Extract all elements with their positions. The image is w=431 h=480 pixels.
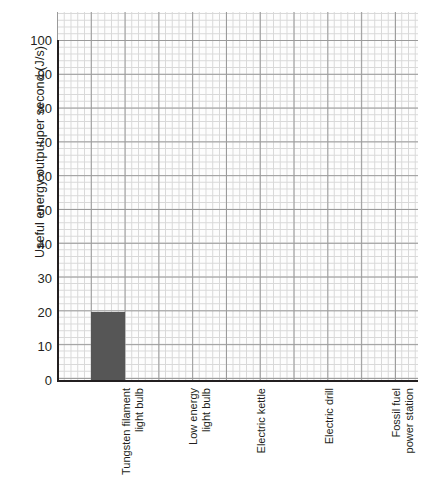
x-axis-category-labels: Tungsten filament light bulbLow energy l… (57, 382, 418, 480)
y-axis-tick-label: 30 (0, 272, 52, 285)
x-axis-category-label: Tungsten filament light bulb (120, 388, 144, 480)
y-axis-tick-label: 40 (0, 238, 52, 251)
bars-layer (57, 40, 418, 380)
x-axis-category-label: Low energy light bulb (187, 388, 211, 480)
y-axis-tick-label: 80 (0, 102, 52, 115)
y-axis-tick-label: 70 (0, 136, 52, 149)
y-axis-tick-labels: 0102030405060708090100 (0, 0, 52, 480)
y-axis-tick-label: 0 (0, 374, 52, 387)
y-axis-line (57, 40, 59, 382)
y-axis-tick-label: 60 (0, 170, 52, 183)
bar (91, 312, 125, 380)
y-axis-tick-label: 100 (0, 34, 52, 47)
x-axis-category-label: Fossil fuel power station (390, 388, 414, 480)
x-axis-category-label: Electric kettle (255, 388, 279, 480)
y-axis-tick-label: 50 (0, 204, 52, 217)
y-axis-tick-label: 20 (0, 306, 52, 319)
x-axis-category-label: Electric drill (323, 388, 347, 480)
bar-chart: Useful energy output per second (J/s) 01… (0, 0, 431, 480)
y-axis-tick-label: 90 (0, 68, 52, 81)
y-axis-tick-label: 10 (0, 340, 52, 353)
